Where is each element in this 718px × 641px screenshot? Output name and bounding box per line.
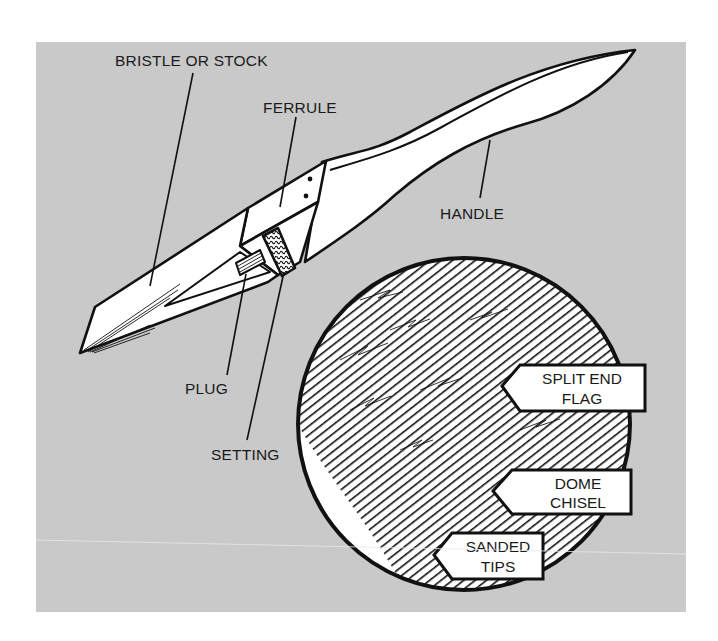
callout-dome-chisel: DOME CHISEL — [493, 470, 631, 514]
callout-text-line1: DOME — [555, 475, 602, 492]
callout-text-line1: SANDED — [466, 538, 531, 555]
callout-text-line1: SPLIT END — [542, 370, 622, 387]
label-handle: HANDLE — [440, 205, 504, 222]
callout-text-line2: TIPS — [481, 558, 515, 575]
callout-sanded-tips: SANDED TIPS — [434, 533, 543, 579]
ferrule-rivet — [304, 194, 309, 199]
label-ferrule: FERRULE — [263, 99, 337, 116]
callout-split-end-flag: SPLIT END FLAG — [502, 365, 645, 411]
label-bristle: BRISTLE OR STOCK — [115, 52, 268, 69]
callout-text-line2: FLAG — [562, 390, 602, 407]
label-setting: SETTING — [211, 446, 280, 463]
ferrule-rivet — [308, 177, 313, 182]
label-plug: PLUG — [185, 380, 228, 397]
paint-brush-diagram: BRISTLE OR STOCK FERRULE HANDLE PLUG SET… — [0, 0, 718, 641]
callout-text-line2: CHISEL — [550, 494, 606, 511]
